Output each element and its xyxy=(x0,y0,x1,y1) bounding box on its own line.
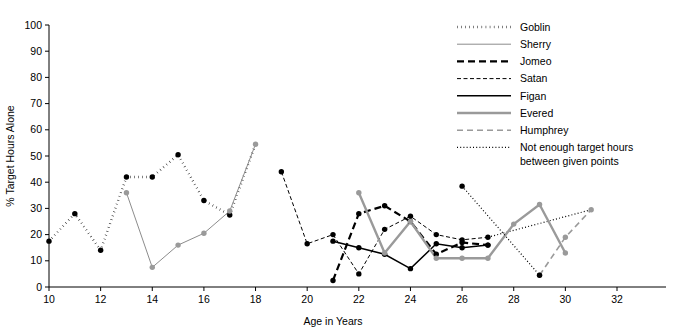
data-point xyxy=(279,169,284,174)
y-tick-label: 60 xyxy=(30,123,42,135)
legend-label: Evered xyxy=(520,107,553,119)
data-point xyxy=(304,241,309,246)
data-point xyxy=(459,237,464,242)
data-point xyxy=(356,190,361,195)
data-point xyxy=(98,248,103,253)
y-tick-label: 10 xyxy=(30,254,42,266)
x-tick-label: 26 xyxy=(456,293,468,305)
legend-label: Not enough target hours xyxy=(520,141,633,153)
y-tick-label: 70 xyxy=(30,97,42,109)
legend-label: Jomeo xyxy=(520,55,552,67)
legend-label: Satan xyxy=(520,72,548,84)
legend-label: Goblin xyxy=(520,21,551,33)
legend-item-goblin[interactable]: Goblin xyxy=(457,21,551,33)
data-point xyxy=(201,198,206,203)
data-point xyxy=(175,242,180,247)
series-line-sherry xyxy=(126,144,255,267)
data-point xyxy=(563,250,568,255)
data-point xyxy=(485,255,490,260)
data-point xyxy=(408,266,413,271)
y-tick-label: 0 xyxy=(36,281,42,293)
data-point xyxy=(227,208,232,213)
data-point xyxy=(356,211,361,216)
x-tick-label: 12 xyxy=(95,293,107,305)
data-point xyxy=(434,232,439,237)
y-tick-label: 30 xyxy=(30,202,42,214)
line-chart: 0102030405060708090100101214161820222426… xyxy=(0,0,674,329)
data-point xyxy=(408,219,413,224)
data-point xyxy=(382,203,387,208)
data-point xyxy=(588,207,593,212)
x-tick-label: 16 xyxy=(198,293,210,305)
y-axis-title: % Target Hours Alone xyxy=(4,105,16,207)
data-point xyxy=(459,255,464,260)
legend-item-not[interactable]: Not enough target hours xyxy=(457,141,633,153)
series-line-not xyxy=(462,186,539,275)
data-point xyxy=(382,250,387,255)
data-point xyxy=(485,235,490,240)
x-tick-label: 10 xyxy=(43,293,55,305)
data-point xyxy=(459,245,464,250)
x-tick-label: 18 xyxy=(250,293,262,305)
data-point xyxy=(382,227,387,232)
data-point xyxy=(537,202,542,207)
data-point xyxy=(563,235,568,240)
data-point xyxy=(253,142,258,147)
data-point xyxy=(356,271,361,276)
legend-item-humphrey[interactable]: Humphrey xyxy=(457,124,569,136)
chart-legend: GoblinSherryJomeoSatanFiganEveredHumphre… xyxy=(457,21,633,167)
data-point xyxy=(46,238,51,243)
x-axis-title: Age in Years xyxy=(304,315,363,327)
data-point xyxy=(330,278,335,283)
y-tick-label: 100 xyxy=(24,19,42,31)
legend-item-jomeo[interactable]: Jomeo xyxy=(457,55,552,67)
data-point xyxy=(356,245,361,250)
connector-satan-gap-27-31 xyxy=(488,210,591,238)
data-point xyxy=(72,211,77,216)
data-point xyxy=(434,241,439,246)
y-tick-label: 80 xyxy=(30,71,42,83)
x-tick-label: 20 xyxy=(301,293,313,305)
legend-label: Sherry xyxy=(520,38,552,50)
data-point xyxy=(124,174,129,179)
data-point xyxy=(150,174,155,179)
y-tick-label: 50 xyxy=(30,150,42,162)
x-tick-label: 22 xyxy=(353,293,365,305)
data-point xyxy=(459,183,464,188)
y-tick-label: 90 xyxy=(30,45,42,57)
data-point xyxy=(408,214,413,219)
y-tick-label: 40 xyxy=(30,176,42,188)
chart-series-layer xyxy=(46,142,594,284)
legend-item-evered[interactable]: Evered xyxy=(457,107,553,119)
legend-label: Figan xyxy=(520,90,546,102)
legend-label-wrap: between given points xyxy=(520,155,619,167)
legend-item-sherry[interactable]: Sherry xyxy=(457,38,552,50)
data-point xyxy=(537,273,542,278)
data-point xyxy=(485,242,490,247)
chart-root: 0102030405060708090100101214161820222426… xyxy=(0,0,674,329)
data-point xyxy=(330,238,335,243)
legend-label: Humphrey xyxy=(520,124,569,136)
x-tick-label: 30 xyxy=(560,293,572,305)
x-tick-label: 32 xyxy=(611,293,623,305)
data-point xyxy=(330,232,335,237)
data-point xyxy=(434,255,439,260)
data-point xyxy=(124,190,129,195)
data-point xyxy=(150,265,155,270)
x-tick-label: 24 xyxy=(405,293,417,305)
x-tick-label: 14 xyxy=(146,293,158,305)
x-tick-label: 28 xyxy=(508,293,520,305)
legend-item-figan[interactable]: Figan xyxy=(457,90,546,102)
data-point xyxy=(201,231,206,236)
y-tick-label: 20 xyxy=(30,228,42,240)
series-line-figan xyxy=(333,241,488,269)
data-point xyxy=(511,221,516,226)
data-point xyxy=(175,152,180,157)
legend-item-satan[interactable]: Satan xyxy=(457,72,548,84)
